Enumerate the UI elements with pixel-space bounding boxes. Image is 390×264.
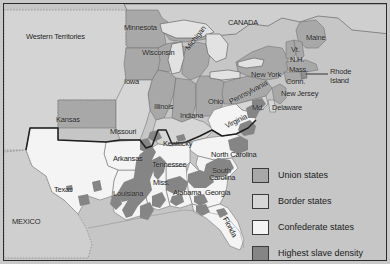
label-ohio: Ohio — [208, 98, 223, 106]
lake-erie — [210, 70, 240, 80]
label-iowa: Iowa — [124, 78, 139, 86]
legend-swatch-border — [252, 194, 269, 209]
label-new-york: New York — [251, 71, 281, 79]
label-mexico: MEXICO — [12, 218, 40, 226]
label-new-hampshire: N.H. — [290, 56, 304, 64]
legend-label-border: Border states — [278, 197, 332, 206]
legend-label-confederate: Confederate states — [278, 223, 354, 232]
legend-swatch-slave-density — [252, 246, 269, 261]
legend-item-confederate: Confederate states — [252, 220, 354, 235]
legend-item-border: Border states — [252, 194, 332, 209]
label-south-carolina-line2: Carolina — [209, 174, 235, 182]
label-rhode-island-line1: Rhode — [330, 68, 351, 76]
civil-war-slave-density-map: Western Territories CANADA MEXICO Minnes… — [0, 0, 390, 264]
label-massachusetts: Mass. — [289, 66, 308, 74]
legend-swatch-union — [252, 168, 269, 183]
label-texas: Texas — [54, 186, 73, 194]
map-legend: Union states Border states Confederate s… — [252, 168, 384, 260]
label-maine: Maine — [306, 34, 325, 42]
legend-label-slave-density: Highest slave density — [278, 249, 363, 258]
label-kentucky: Kentucky — [163, 140, 192, 148]
legend-item-union: Union states — [252, 168, 328, 183]
label-tennessee: Tennessee — [152, 161, 186, 169]
label-maryland: Md. — [252, 104, 264, 112]
label-new-jersey: New Jersey — [281, 90, 318, 98]
label-georgia: Georgia — [205, 189, 230, 197]
label-alabama: Alabama — [173, 189, 201, 197]
label-kansas: Kansas — [56, 116, 80, 124]
legend-item-slave-density: Highest slave density — [252, 246, 363, 261]
label-rhode-island-line2: Island — [330, 77, 349, 85]
label-north-carolina: North Carolina — [211, 151, 257, 159]
label-connecticut: Conn. — [286, 78, 305, 86]
label-delaware: Delaware — [272, 104, 302, 112]
label-canada: CANADA — [228, 19, 258, 27]
legend-label-union: Union states — [278, 171, 328, 180]
label-minnesota: Minnesota — [124, 24, 157, 32]
legend-swatch-confederate — [252, 220, 269, 235]
label-vermont: Vt. — [291, 46, 300, 54]
label-mississippi: Miss. — [153, 179, 170, 187]
label-illinois: Illinois — [154, 103, 173, 111]
label-arkansas: Arkansas — [113, 155, 143, 163]
label-wisconsin: Wisconsin — [142, 49, 174, 57]
label-louisiana: Louisiana — [113, 190, 143, 198]
label-indiana: Indiana — [180, 112, 203, 120]
label-missouri: Missouri — [110, 128, 136, 136]
label-western-territories: Western Territories — [26, 33, 85, 41]
